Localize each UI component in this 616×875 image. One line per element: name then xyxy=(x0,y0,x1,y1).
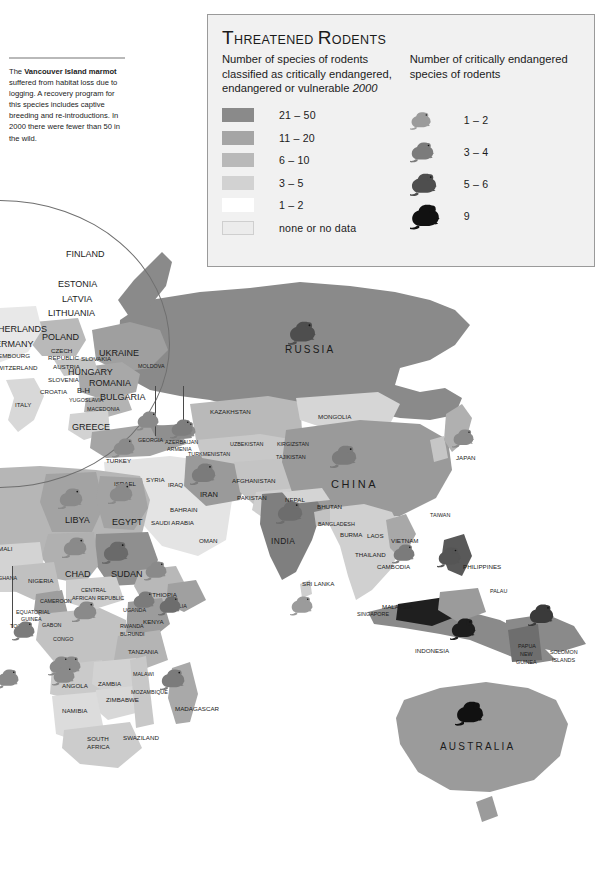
legend-swatch-label: 6 – 10 xyxy=(279,154,310,166)
legend-swatch-2 xyxy=(222,153,254,167)
mouse-icon xyxy=(410,172,456,196)
legend-title: THREATENED RODENTS xyxy=(222,27,582,49)
legend-swatch-row: 1 – 2 xyxy=(222,195,410,216)
annotation-note: The Vancouver Island marmot suffered fro… xyxy=(9,57,125,144)
legend-marker-label: 5 – 6 xyxy=(464,178,489,190)
legend-swatch-4 xyxy=(222,198,254,212)
legend-marker-label: 1 – 2 xyxy=(464,114,489,126)
note-text: The Vancouver Island marmot suffered fro… xyxy=(9,66,125,144)
legend-marker-row: 1 – 2 xyxy=(410,104,582,136)
legend-subtitle-left-year: 2000 xyxy=(353,82,378,94)
legend-swatch-1 xyxy=(222,131,254,145)
leader-line-ghana xyxy=(12,566,13,628)
legend-swatch-0 xyxy=(222,108,254,122)
legend-swatch-label: none or no data xyxy=(279,222,356,234)
legend-swatch-row: none or no data xyxy=(222,217,410,238)
legend-marker-row: 3 – 4 xyxy=(410,136,582,168)
mouse-icon xyxy=(410,141,456,163)
legend-marker-list: 1 – 23 – 45 – 69 xyxy=(410,104,582,232)
legend-column-markers: Number of critically endangered species … xyxy=(410,52,582,238)
legend-swatch-list: 21 – 5011 – 206 – 103 – 51 – 2none or no… xyxy=(222,105,410,238)
legend-swatch-5 xyxy=(222,221,254,235)
note-divider xyxy=(9,57,125,59)
legend-subtitle-left: Number of species of rodents classified … xyxy=(222,52,410,96)
legend-panel: THREATENED RODENTS Number of species of … xyxy=(207,14,595,267)
legend-swatch-3 xyxy=(222,176,254,190)
legend-swatch-row: 3 – 5 xyxy=(222,172,410,193)
legend-swatch-label: 3 – 5 xyxy=(279,177,304,189)
legend-marker-row: 9 xyxy=(410,200,582,232)
legend-marker-label: 3 – 4 xyxy=(464,146,489,158)
leader-line-georgia xyxy=(155,386,156,436)
mouse-icon xyxy=(410,203,456,230)
legend-marker-label: 9 xyxy=(464,210,470,222)
legend-subtitle-right: Number of critically endangered species … xyxy=(410,52,582,81)
legend-swatch-label: 11 – 20 xyxy=(279,132,315,144)
mouse-icon xyxy=(410,111,456,130)
leader-line-azerbaijan xyxy=(183,386,184,436)
legend-swatch-label: 21 – 50 xyxy=(279,109,316,121)
legend-column-choropleth: Number of species of rodents classified … xyxy=(222,52,410,238)
legend-swatch-row: 21 – 50 xyxy=(222,105,410,126)
map-page: FINLANDESTONIALATVIALITHUANIANETHERLANDS… xyxy=(0,0,616,875)
legend-swatch-row: 6 – 10 xyxy=(222,150,410,171)
legend-swatch-row: 11 – 20 xyxy=(222,127,410,148)
legend-swatch-label: 1 – 2 xyxy=(279,199,304,211)
legend-marker-row: 5 – 6 xyxy=(410,168,582,200)
